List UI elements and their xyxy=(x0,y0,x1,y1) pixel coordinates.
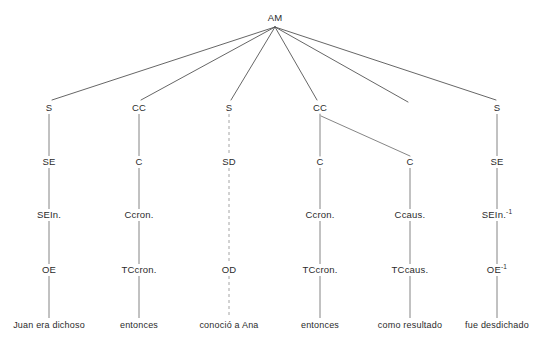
node-col4-cc: CC xyxy=(311,103,329,113)
node-col6-sein-text: SEIn. xyxy=(482,209,506,220)
node-label-layer: AM S SE SEIn. OE Juan era dichoso CC C C… xyxy=(0,0,547,351)
leaf-col4: entonces xyxy=(299,321,341,330)
node-col6-oe-superscript: -1 xyxy=(501,263,507,270)
node-col1-se: SE xyxy=(40,157,57,167)
node-col5-tccaus: TCcaus. xyxy=(390,265,431,275)
node-col5-ccaus: Ccaus. xyxy=(393,210,428,220)
node-col3-od: OD xyxy=(220,265,239,275)
leaf-col6: fue desdichado xyxy=(463,321,531,330)
leaf-col2: entonces xyxy=(118,321,160,330)
node-col2-cc: CC xyxy=(130,103,148,113)
node-col6-se: SE xyxy=(488,157,505,167)
node-col4-c: C xyxy=(314,157,325,167)
node-col4-tccron: TCcron. xyxy=(300,265,339,275)
node-col1-sein: SEIn. xyxy=(35,210,63,220)
node-col4-ccron: Ccron. xyxy=(303,210,336,220)
node-root-am: AM xyxy=(266,13,285,23)
node-col6-oe-inverse: OE-1 xyxy=(485,265,509,275)
leaf-col1: Juan era dichoso xyxy=(11,321,87,330)
node-col6-sein-superscript: -1 xyxy=(506,208,512,215)
node-col5-c: C xyxy=(404,157,415,167)
leaf-col5: como resultado xyxy=(376,321,444,330)
node-col6-oe-text: OE xyxy=(487,264,501,275)
node-col2-ccron: Ccron. xyxy=(122,210,155,220)
node-col1-s: S xyxy=(44,103,55,113)
node-col3-sd: SD xyxy=(220,157,238,167)
node-col1-oe: OE xyxy=(40,265,58,275)
node-col2-tccron: TCcron. xyxy=(119,265,158,275)
node-col6-sein-inverse: SEIn.-1 xyxy=(480,210,514,220)
node-col6-s: S xyxy=(492,103,503,113)
node-col2-c: C xyxy=(133,157,144,167)
node-col3-s: S xyxy=(224,103,235,113)
leaf-col3: conoció a Ana xyxy=(197,321,260,330)
